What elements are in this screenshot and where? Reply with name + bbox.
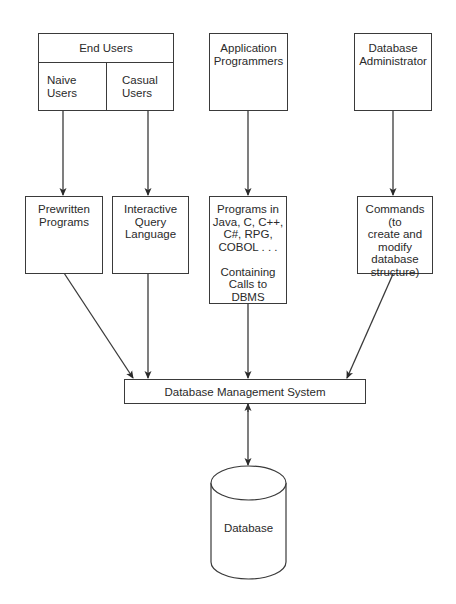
- prewritten-programs-label: Prewritten Programs: [26, 203, 102, 228]
- arrow-prewritten-to-dbms: [64, 273, 133, 378]
- prewritten-programs-box: Prewritten Programs: [25, 196, 103, 274]
- interactive-query-language-label: Interactive Query Language: [113, 203, 188, 241]
- naive-users-box: Naive Users: [39, 63, 106, 110]
- database-label: Database: [211, 522, 286, 534]
- casual-users-label: Casual Users: [122, 74, 173, 99]
- end-users-box: End Users Naive Users Casual Users: [38, 33, 174, 111]
- dbms-box: Database Management System: [124, 379, 366, 404]
- interactive-query-language-box: Interactive Query Language: [112, 196, 189, 274]
- dba-commands-box: Commands (to create and modify database …: [357, 196, 433, 274]
- application-programmers-box: Application Programmers: [209, 33, 288, 111]
- application-programmers-label: Application Programmers: [210, 42, 287, 67]
- programs-with-dbms-calls-box: Programs in Java, C, C++, C#, RPG, COBOL…: [209, 196, 287, 304]
- dbms-label: Database Management System: [125, 386, 365, 399]
- end-users-title: End Users: [39, 42, 173, 55]
- dba-commands-label: Commands (to create and modify database …: [358, 203, 432, 278]
- database-administrator-box: Database Administrator: [354, 33, 432, 111]
- casual-users-box: Casual Users: [107, 63, 173, 110]
- programs-with-dbms-calls-label: Programs in Java, C, C++, C#, RPG, COBOL…: [210, 203, 286, 303]
- database-administrator-label: Database Administrator: [355, 42, 431, 67]
- naive-users-label: Naive Users: [47, 74, 106, 99]
- arrow-commands-to-dbms: [347, 274, 393, 378]
